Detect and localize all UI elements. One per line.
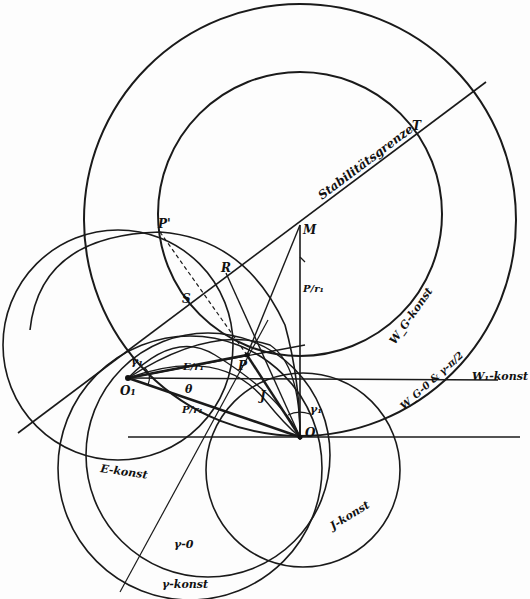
circle-gamma-zero bbox=[86, 333, 330, 577]
point-p bbox=[245, 353, 250, 358]
label-gamma1-o: γ₁ bbox=[310, 403, 322, 416]
arc-o1-o-mid bbox=[128, 346, 300, 437]
point-o bbox=[298, 435, 303, 440]
label-gamma-konst: γ-konst bbox=[162, 578, 208, 591]
line-horizontal-o1 bbox=[128, 378, 498, 380]
label-stabilitaetsgrenze: Stabilitätsgrenze bbox=[315, 122, 416, 203]
label-p-over-r1-lower: P/r₁ bbox=[181, 404, 203, 415]
label-o1: O₁ bbox=[120, 384, 136, 398]
label-o: O bbox=[305, 426, 316, 440]
label-p-prime: P' bbox=[157, 217, 171, 231]
label-j-konst: J-konst bbox=[326, 498, 372, 533]
line-o1-e bbox=[128, 345, 305, 378]
label-j-symbol: J bbox=[258, 389, 267, 403]
label-w1-konst: W₁-konst bbox=[472, 370, 528, 383]
label-e-over-r1: E/r₁ bbox=[182, 361, 204, 372]
label-e-konst: E-konst bbox=[99, 462, 149, 482]
label-wg-konst: W_G-konst bbox=[387, 285, 436, 347]
circle-diagram: O O₁ P P' M R S T Stabilitätsgrenze W₁-k… bbox=[0, 0, 530, 599]
label-gamma-zero: γ-0 bbox=[174, 538, 194, 551]
circle-j-konst bbox=[206, 373, 400, 567]
line-o1-o bbox=[128, 378, 300, 437]
label-p-over-r1-m: P/r₁ bbox=[302, 283, 324, 294]
label-s: S bbox=[182, 292, 191, 306]
point-o1 bbox=[125, 375, 131, 381]
label-gamma1-o1: γ₁ bbox=[131, 355, 143, 368]
label-r: R bbox=[220, 261, 231, 275]
label-p: P bbox=[237, 359, 248, 373]
label-theta: θ bbox=[185, 383, 193, 396]
label-m: M bbox=[302, 223, 317, 237]
diagram-canvas: O O₁ P P' M R S T Stabilitätsgrenze W₁-k… bbox=[0, 0, 530, 599]
